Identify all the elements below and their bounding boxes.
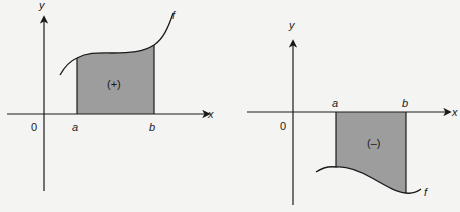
origin-label: 0	[31, 121, 37, 133]
origin-label: 0	[280, 120, 286, 132]
function-label: f	[172, 9, 176, 21]
function-label: f	[424, 186, 428, 198]
y-axis-label: y	[38, 0, 46, 11]
lower-bound-label: a	[72, 121, 78, 133]
y-axis-label: y	[288, 19, 296, 31]
region-sign-label: (–)	[367, 137, 380, 149]
upper-bound-label: b	[149, 121, 155, 133]
right-graph: y a b x 0 (–) f	[247, 19, 458, 205]
lower-bound-label: a	[332, 97, 338, 109]
diagram-canvas: y f (+) x 0 a b y a b x 0 (–) f	[0, 0, 460, 212]
x-axis-label: x	[451, 106, 458, 118]
region-sign-label: (+)	[107, 78, 121, 90]
negative-area-region	[336, 112, 406, 193]
left-graph: y f (+) x 0 a b	[7, 0, 214, 191]
x-axis-label: x	[207, 108, 214, 120]
upper-bound-label: b	[402, 97, 408, 109]
